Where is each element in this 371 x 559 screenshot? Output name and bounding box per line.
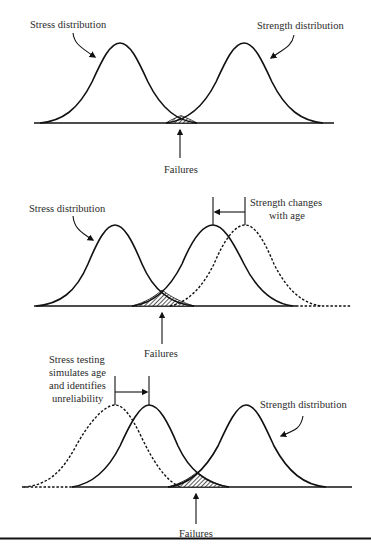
shift-label-line3: and identifies bbox=[49, 380, 106, 391]
stress-distribution-curve bbox=[40, 43, 197, 123]
shift-label-line4: unreliability bbox=[52, 393, 104, 404]
failures-label: Failures bbox=[144, 348, 178, 359]
failures-label: Failures bbox=[164, 164, 198, 175]
shift-label-line1: Stress testing bbox=[49, 354, 105, 365]
stress-leader-arrow bbox=[73, 33, 95, 57]
shift-label-line2: with age bbox=[269, 210, 305, 221]
stress-strength-interference-figure: Stress distribution Strength distributio… bbox=[0, 0, 371, 559]
strength-distribution-curve-original bbox=[170, 225, 322, 306]
strength-distribution-curve bbox=[166, 43, 323, 123]
strength-distribution-label: Strength distribution bbox=[260, 399, 347, 410]
stress-distribution-label: Stress distribution bbox=[29, 203, 106, 214]
shift-label-line2: simulates age bbox=[49, 367, 106, 378]
stress-distribution-curve bbox=[36, 225, 194, 306]
strength-distribution-label: Strength distribution bbox=[257, 20, 344, 31]
stress-distribution-label: Stress distribution bbox=[30, 19, 107, 30]
shift-label-line1: Strength changes bbox=[250, 197, 322, 208]
panel-stress-testing: Stress testing simulates age and identif… bbox=[22, 354, 352, 539]
strength-leader-arrow bbox=[271, 35, 294, 58]
panel-baseline: Stress distribution Strength distributio… bbox=[30, 19, 344, 175]
failures-label: Failures bbox=[179, 528, 213, 539]
panel-aging: Strength changes with age Stress distrib… bbox=[29, 197, 351, 359]
strength-leader-arrow bbox=[281, 416, 303, 436]
stress-leader-arrow bbox=[73, 216, 93, 240]
stress-distribution-curve-original bbox=[24, 405, 181, 487]
